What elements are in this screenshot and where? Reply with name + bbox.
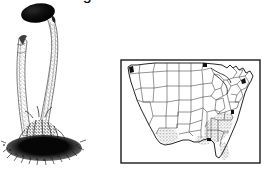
specimen-illustration-panel: Line-drawing of a slender two-stalked pl… (0, 0, 115, 176)
soil-clump (1, 135, 86, 165)
map-title: United States distribution (stippled ran… (115, 50, 266, 53)
us-distribution-map-panel: United States distribution (stippled ran… (115, 50, 266, 176)
specimen-description: Line-drawing of a slender two-stalked pl… (0, 0, 115, 3)
secondary-stalk (17, 35, 31, 136)
us-map: United States distribution (stippled ran… (115, 50, 266, 176)
figure-root: Line-drawing of a slender two-stalked pl… (0, 0, 266, 176)
specimen-drawing: Line-drawing of a slender two-stalked pl… (0, 0, 115, 176)
